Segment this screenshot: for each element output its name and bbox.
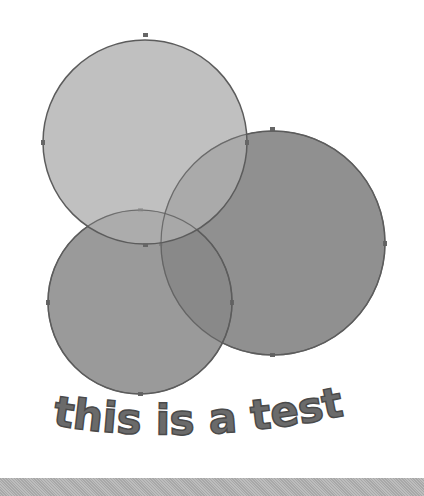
handle-icon[interactable] (143, 33, 148, 37)
handle-icon[interactable] (270, 127, 275, 131)
handle-icon[interactable] (143, 243, 148, 247)
handle-icon[interactable] (41, 140, 45, 145)
caption-text[interactable]: this is a test (50, 377, 346, 444)
caption-text-path: this is a test (50, 377, 346, 444)
handle-icon[interactable] (245, 140, 249, 145)
drawing-canvas: this is a test (0, 0, 424, 496)
bottom-bar (0, 478, 424, 496)
